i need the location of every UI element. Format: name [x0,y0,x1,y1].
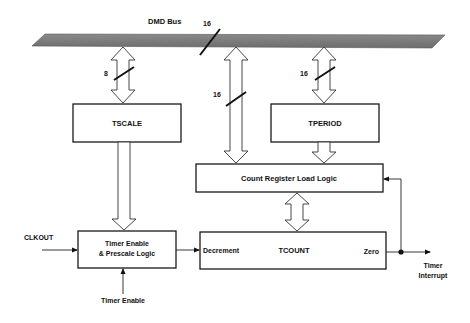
timer-interrupt-label-line1: Timer [424,262,443,269]
timer-block-diagram: DMD Bus 16 8 16 16 TSCALE TPERIOD Count … [0,0,470,323]
count-load-label: Count Register Load Logic [241,174,337,183]
tscale-width-label: 8 [104,70,108,77]
bus-width-label: 16 [203,20,211,27]
countload-width-label: 16 [213,91,221,98]
countload-tcount-arrow [285,193,309,231]
prescale-label-line1: Timer Enable [105,240,149,247]
clkout-label: CLKOUT [24,234,54,241]
prescale-label-line2: & Prescale Logic [99,250,156,258]
dmd-bus [32,34,445,48]
timer-enable-label: Timer Enable [101,297,145,304]
tperiod-countload-arrow [312,142,336,163]
tcount-decrement-label: Decrement [203,247,240,254]
tcount-label: TCOUNT [278,246,310,255]
dmd-bus-label: DMD Bus [148,17,181,26]
timer-interrupt-label-line2: Interrupt [419,272,448,280]
tcount-zero-label: Zero [364,248,379,255]
tscale-label: TSCALE [112,119,142,128]
tperiod-width-label: 16 [300,70,308,77]
tscale-prescale-arrow [112,142,136,230]
tperiod-label: TPERIOD [308,119,342,128]
